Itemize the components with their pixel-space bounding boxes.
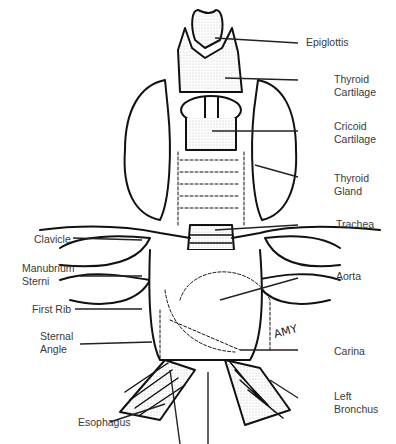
label-left-bronchus: LeftBronchus xyxy=(334,390,378,416)
label-cricoid-cartilage: CricoidCartilage xyxy=(334,120,376,146)
label-clavicle: Clavicle xyxy=(34,233,71,246)
label-thyroid-gland: ThyroidGland xyxy=(334,172,369,198)
label-thyroid-cartilage: ThyroidCartilage xyxy=(334,73,376,99)
label-first-rib: First Rib xyxy=(32,303,71,316)
anatomy-diagram: ▀▀▀ ▀▀ xyxy=(0,0,396,444)
label-esophagus: Esophagus xyxy=(78,416,131,429)
label-carina: Carina xyxy=(334,345,365,358)
label-trachea: Trachea xyxy=(336,218,374,231)
label-sternal-angle: SternalAngle xyxy=(40,330,73,356)
label-epiglottis: Epiglottis xyxy=(306,36,349,49)
label-aorta: Aorta xyxy=(336,270,361,283)
label-manubrium-sterni: ManubriumSterni xyxy=(22,262,75,288)
artist-signature: AMY xyxy=(272,322,299,341)
